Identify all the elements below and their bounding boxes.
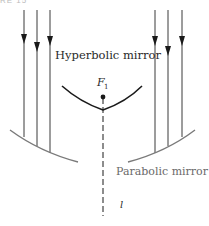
left-incoming-rays xyxy=(24,10,50,153)
arrow-down-icon xyxy=(152,36,158,46)
parabolic-mirror-right xyxy=(128,130,195,162)
arrow-down-icon xyxy=(179,36,185,46)
parabolic-mirror-left xyxy=(10,130,78,162)
hyperbolic-mirror-label: Hyperbolic mirror xyxy=(55,48,161,62)
telescope-mirror-diagram: Hyperbolic mirror F 1 Parabolic mirror l xyxy=(0,0,209,226)
right-incoming-rays xyxy=(155,10,182,153)
arrow-down-icon xyxy=(21,34,27,44)
arrow-down-icon xyxy=(47,36,53,46)
arrow-down-icon xyxy=(34,42,40,52)
focus-point-f1 xyxy=(101,95,106,100)
parabolic-mirror-label: Parabolic mirror xyxy=(116,165,209,178)
arrow-down-icon xyxy=(165,46,171,56)
axis-label: l xyxy=(120,199,123,210)
focus-subscript: 1 xyxy=(104,83,108,91)
